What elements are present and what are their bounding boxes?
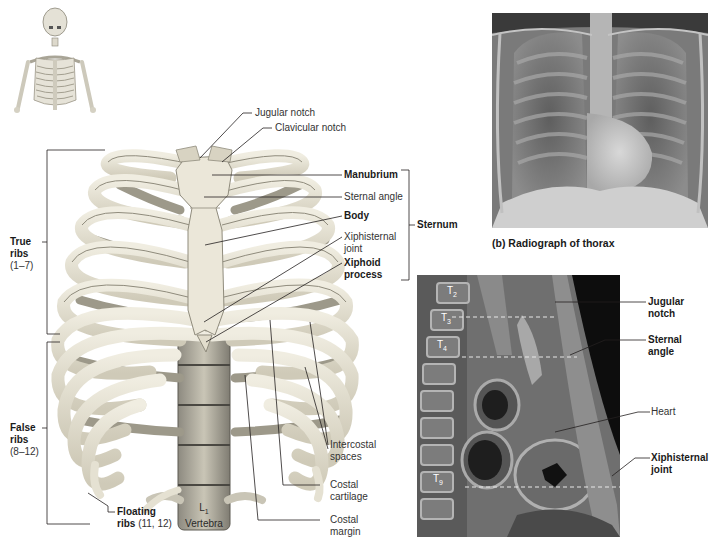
label-floating-ribs-line2: ribs [117,518,135,529]
label-sternum: Sternum [417,219,458,231]
label-false-ribs: False ribs (8–12) [10,422,39,458]
label-false-ribs-line1: False [10,422,39,434]
label-true-ribs-line2: ribs [10,248,33,260]
label-sag-sternal-angle: Sternal angle [648,334,682,358]
label-xiphisternal-line2: joint [344,243,396,255]
label-vertebra-word: Vertebra [182,518,226,530]
label-costal-cartilage: Costal cartilage [330,479,368,503]
label-intercostal-line1: Intercostal [330,439,376,451]
label-sag-xiphisternal-joint: Xiphisternal joint [651,452,708,476]
label-xiphisternal-line1: Xiphisternal [344,231,396,243]
label-true-ribs-range: (1–7) [10,260,33,272]
label-l1-vertebra: L1 Vertebra [182,502,226,530]
label-l1-sub: 1 [205,508,209,515]
label-clavicular-notch: Clavicular notch [275,122,346,134]
label-costal-margin-line2: margin [330,526,361,538]
thorax-radiograph [492,13,708,228]
label-floating-ribs-line1: Floating [117,506,172,518]
label-false-ribs-line2: ribs [10,434,39,446]
label-costal-margin: Costal margin [330,514,361,538]
sagittal-section-photo: T2 T3 T4 T9 [417,275,620,537]
label-body: Body [344,210,369,222]
label-floating-ribs: Floating ribs (11, 12) [117,506,172,530]
label-floating-ribs-range: (11, 12) [138,518,172,529]
label-true-ribs-line1: True [10,236,33,248]
label-costal-cartilage-line2: cartilage [330,491,368,503]
label-t2: T2 [447,285,457,301]
label-t3: T3 [441,312,451,328]
label-xiphoid-process: Xiphoid process [344,257,382,281]
label-sag-heart: Heart [651,406,675,418]
radiograph-image [492,13,708,228]
label-sag-jugular-notch: Jugular notch [648,296,684,320]
radiograph-caption: (b) Radiograph of thorax [492,237,615,249]
label-costal-cartilage-line1: Costal [330,479,368,491]
label-xiphoid-line2: process [344,269,382,281]
label-t4: T4 [437,339,447,355]
label-sternal-angle: Sternal angle [344,191,403,203]
label-intercostal-spaces: Intercostal spaces [330,439,376,463]
label-false-ribs-range: (8–12) [10,446,39,458]
label-t9: T9 [433,473,443,489]
label-intercostal-line2: spaces [330,451,376,463]
label-xiphoid-line1: Xiphoid [344,257,382,269]
label-jugular-notch: Jugular notch [255,107,315,119]
label-true-ribs: True ribs (1–7) [10,236,33,272]
label-manubrium: Manubrium [344,169,398,181]
label-xiphisternal-joint: Xiphisternal joint [344,231,396,255]
label-costal-margin-line1: Costal [330,514,361,526]
